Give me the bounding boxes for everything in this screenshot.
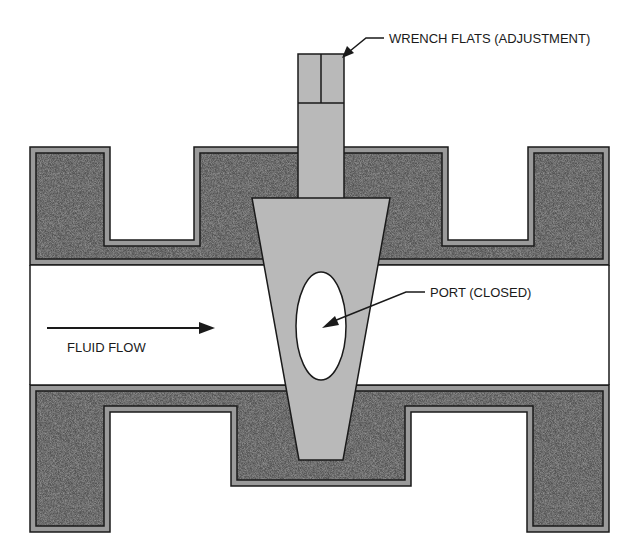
port [296,272,346,380]
wrench-flats-leader-line [342,38,384,58]
wrench-flats-label: WRENCH FLATS (ADJUSTMENT) [389,31,590,46]
fluid-flow-label: FLUID FLOW [67,340,146,355]
stem [298,54,344,200]
arrowhead-icon [342,46,354,58]
plug-valve-diagram: FLUID FLOW PORT (CLOSED) WRENCH FLATS (A… [0,0,641,560]
port-label: PORT (CLOSED) [430,285,531,300]
